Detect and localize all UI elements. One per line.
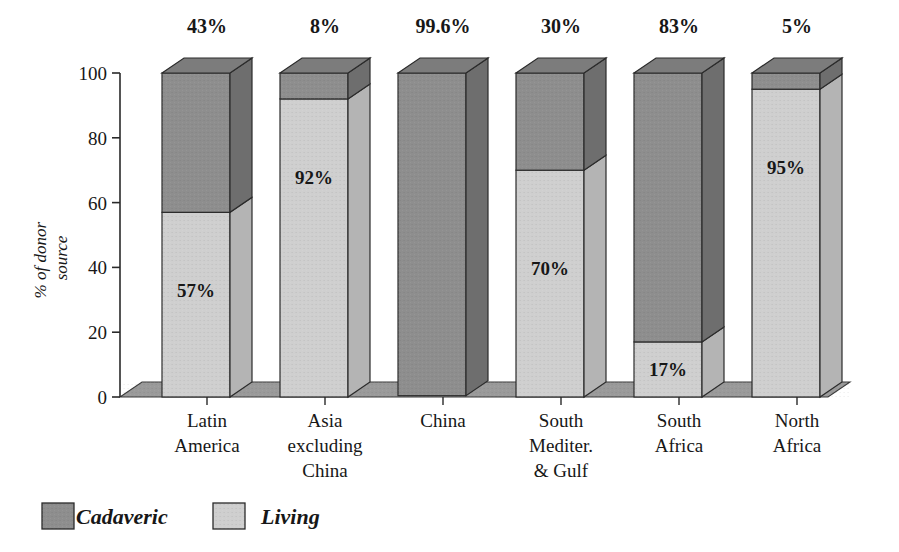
legend-label: Living <box>260 504 320 529</box>
bar-segment-cadaveric-texture <box>162 73 230 212</box>
bar-segment-living-side <box>820 74 842 397</box>
bar-inner-label: 95% <box>767 157 805 178</box>
legend-item: Cadaveric <box>42 503 168 529</box>
chart-legend: CadavericLiving <box>42 503 320 529</box>
bar-segment-cadaveric-side <box>230 58 252 212</box>
x-axis-category-line: Asia <box>308 410 343 431</box>
donor-source-stacked-bar-chart: 020406080100 43%8%99.6%30%83%5% 57%92%70… <box>0 0 899 552</box>
bar-top-label: 99.6% <box>416 15 471 37</box>
bar-inner-label: 57% <box>177 280 215 301</box>
x-axis-category-line: China <box>302 460 348 481</box>
x-axis-category-label: China <box>420 410 466 431</box>
bar-inner-label: 92% <box>295 167 333 188</box>
y-axis-title-line1: % of donor <box>31 221 50 298</box>
top-value-labels: 43%8%99.6%30%83%5% <box>187 15 812 37</box>
x-axis-category-line: Africa <box>773 435 822 456</box>
x-axis-category-line: South <box>539 410 584 431</box>
x-axis-category-labels: LatinAmericaAsiaexcludingChinaChinaSouth… <box>174 397 822 481</box>
legend-item: Living <box>213 503 320 529</box>
bar-column <box>752 58 842 397</box>
bar-inner-label: 70% <box>531 258 569 279</box>
bar-segment-cadaveric-side <box>466 58 488 396</box>
x-axis-category-line: Mediter. <box>529 435 593 456</box>
bar-segment-cadaveric-side <box>584 58 606 170</box>
y-axis-tick-label: 20 <box>88 322 107 343</box>
bar-top-label: 43% <box>187 15 227 37</box>
bar-segment-living-texture <box>752 89 820 397</box>
chart-figure: 020406080100 43%8%99.6%30%83%5% 57%92%70… <box>0 0 899 552</box>
y-axis-title: % of donor source <box>31 218 71 299</box>
bar-top-label: 83% <box>659 15 699 37</box>
bar-inner-label: 17% <box>649 359 687 380</box>
y-axis-tick-label: 100 <box>79 63 108 84</box>
bar-segment-living-side <box>230 197 252 397</box>
bar-segment-cadaveric-texture <box>634 73 702 342</box>
svg-text:% of donor source: % of donor source <box>31 218 71 299</box>
x-axis-category-line: America <box>174 435 240 456</box>
x-axis-category-label: SouthAfrica <box>655 410 704 456</box>
x-axis-category-label: SouthMediter.& Gulf <box>529 410 593 481</box>
x-axis-category-line: China <box>420 410 466 431</box>
bar-segment-cadaveric-side <box>702 58 724 342</box>
bar-segment-living-side <box>584 155 606 397</box>
y-axis-tick-label: 0 <box>98 387 108 408</box>
bar-top-label: 30% <box>541 15 581 37</box>
y-axis-tick-label: 60 <box>88 193 107 214</box>
bar-segment-cadaveric-texture <box>516 73 584 170</box>
bar-column <box>516 58 606 397</box>
bar-column <box>162 58 252 397</box>
bar-segment-living-side <box>348 84 370 397</box>
x-axis-category-line: excluding <box>288 435 363 456</box>
y-axis-tick-label: 80 <box>88 128 107 149</box>
bar-segment-living-texture <box>516 170 584 397</box>
bar-segment-cadaveric-texture <box>752 73 820 89</box>
bar-segment-living-texture <box>162 212 230 397</box>
bar-segment-living-texture <box>280 99 348 397</box>
x-axis-category-line: Latin <box>187 410 228 431</box>
x-axis-category-label: NorthAfrica <box>773 410 822 456</box>
x-axis-category-line: Africa <box>655 435 704 456</box>
bar-segment-cadaveric-texture <box>280 73 348 99</box>
legend-swatch-texture <box>213 503 245 529</box>
bar-column <box>634 58 724 397</box>
x-axis-category-line: South <box>657 410 702 431</box>
bar-top-label: 8% <box>310 15 340 37</box>
x-axis-category-label: AsiaexcludingChina <box>288 410 363 481</box>
legend-label: Cadaveric <box>76 504 168 529</box>
bar-segment-cadaveric-texture <box>398 73 466 396</box>
x-axis-category-label: LatinAmerica <box>174 410 240 456</box>
bars-layer <box>162 58 842 397</box>
y-axis-title-line2: source <box>52 235 71 280</box>
bar-column <box>398 58 488 396</box>
y-axis-tick-label: 40 <box>88 257 107 278</box>
bar-column <box>280 58 370 397</box>
x-axis-category-line: & Gulf <box>534 460 589 481</box>
bar-top-label: 5% <box>782 15 812 37</box>
x-axis-category-line: North <box>775 410 820 431</box>
y-axis: 020406080100 <box>79 63 121 408</box>
legend-swatch-texture <box>42 503 74 529</box>
